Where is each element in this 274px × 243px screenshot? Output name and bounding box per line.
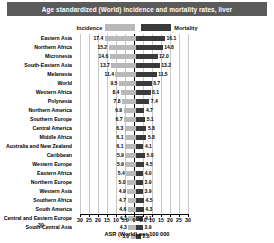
row-label: Northern Europe	[0, 178, 74, 187]
row-label: Northern Africa	[0, 43, 74, 52]
incidence-bar	[125, 126, 136, 132]
mortality-half: 5.8	[136, 133, 272, 142]
mortality-bar	[136, 144, 143, 150]
row-label: South-Eastern Asia	[0, 61, 74, 70]
page-title: Age standardized (World) incidence and m…	[42, 6, 232, 13]
mortality-half: 12.0	[136, 52, 272, 61]
table-row: Northern Africa15.214.8	[0, 43, 274, 52]
mortality-half: 11.5	[136, 70, 272, 79]
row-label: Western Africa	[0, 88, 74, 97]
incidence-value: 4.9	[119, 187, 126, 196]
mortality-half: 3.9	[136, 187, 272, 196]
mortality-value: 4.1	[145, 142, 152, 151]
legend-swatch-mortality	[141, 24, 171, 31]
axis-tick-label: 30	[185, 217, 191, 223]
chart-legend: Incidence Mortality	[0, 22, 274, 33]
incidence-value: 5.4	[118, 169, 125, 178]
incidence-value: 5.9	[117, 151, 124, 160]
mortality-bar	[136, 153, 145, 159]
legend-swatch-incidence	[105, 24, 135, 31]
mortality-value: 3.9	[145, 187, 152, 196]
incidence-half: 15.2	[74, 43, 136, 52]
table-row: Central America6.35.8	[0, 124, 274, 133]
mortality-half: 4.3	[136, 205, 272, 214]
axis-tick-label: 15	[158, 217, 164, 223]
incidence-value: 14.6	[99, 52, 109, 61]
table-row: Melanesia11.411.5	[0, 70, 274, 79]
axis-tick-label: 15	[104, 217, 110, 223]
row-label: Caribbean	[0, 151, 74, 160]
axis-tick-label: 30	[77, 217, 83, 223]
axis-tick-label: 25	[86, 217, 92, 223]
mortality-bar	[136, 90, 151, 96]
table-row: Southern Africa4.74.5	[0, 196, 274, 205]
incidence-bar	[126, 171, 136, 177]
incidence-bar	[111, 63, 136, 69]
row-label: Eastern Asia	[0, 34, 74, 43]
table-row: South-Eastern Asia13.713.2	[0, 61, 274, 70]
mortality-half: 5.1	[136, 115, 272, 124]
incidence-value: 5.9	[117, 160, 124, 169]
row-label: Southern Africa	[0, 196, 74, 205]
chart-rows: Eastern Asia17.416.1Northern Africa15.21…	[0, 34, 274, 241]
axis-tick-label: 5.0	[139, 217, 146, 223]
incidence-value: 8.4	[112, 88, 119, 97]
incidence-value: 15.2	[97, 43, 107, 52]
row-label: Western Asia	[0, 187, 74, 196]
incidence-half: 11.4	[74, 70, 136, 79]
incidence-half: 6.7	[74, 115, 136, 124]
incidence-half: 6.3	[74, 124, 136, 133]
table-row: Southern Europe6.75.1	[0, 115, 274, 124]
mortality-value: 12.0	[159, 52, 169, 61]
mortality-half: 14.8	[136, 43, 272, 52]
mortality-bar	[136, 225, 143, 231]
table-row: Caribbean5.95.0	[0, 151, 274, 160]
incidence-half: 5.9	[74, 160, 136, 169]
incidence-half: 5.9	[74, 151, 136, 160]
row-label: Central America	[0, 124, 74, 133]
incidence-half: 14.6	[74, 52, 136, 61]
incidence-bar	[127, 189, 136, 195]
table-row: Northern Europe5.03.9	[0, 178, 274, 187]
row-label: Eastern Africa	[0, 169, 74, 178]
mortality-half: 8.7	[136, 79, 272, 88]
incidence-value: 6.9	[115, 106, 122, 115]
mortality-value: 5.1	[147, 115, 154, 124]
incidence-bar	[125, 162, 136, 168]
mortality-bar	[136, 126, 146, 132]
mortality-half: 5.0	[136, 151, 272, 160]
mortality-value: 4.0	[145, 169, 152, 178]
mortality-half: 4.5	[136, 160, 272, 169]
axis-tick-label: 10	[113, 217, 119, 223]
incidence-bar	[125, 153, 136, 159]
incidence-value: 6.1	[117, 133, 124, 142]
mortality-bar	[136, 207, 144, 213]
table-row: Eastern Asia17.416.1	[0, 34, 274, 43]
legend-label-mortality: Mortality	[174, 25, 197, 31]
row-label: Western Europe	[0, 160, 74, 169]
mortality-value: 16.1	[166, 34, 176, 43]
incidence-bar	[128, 225, 136, 231]
table-row: Australia and New Zealand6.14.1	[0, 142, 274, 151]
mortality-value: 11.5	[158, 70, 167, 79]
incidence-half: 4.9	[74, 187, 136, 196]
mortality-half: 13.2	[136, 61, 272, 70]
incidence-bar	[115, 72, 136, 78]
axis-tick-label: 25	[176, 217, 182, 223]
row-label: Polynesia	[0, 97, 74, 106]
incidence-half: 17.4	[74, 34, 136, 43]
table-row: Middle Africa6.15.8	[0, 133, 274, 142]
table-row: Western Asia4.93.9	[0, 187, 274, 196]
axis-tick-label: 0	[133, 217, 136, 223]
mortality-bar	[136, 72, 157, 78]
row-label: Australia and New Zealand	[0, 142, 74, 151]
mortality-half: 4.5	[136, 196, 272, 205]
table-row: Polynesia7.87.4	[0, 97, 274, 106]
mortality-value: 5.8	[148, 133, 155, 142]
mortality-bar	[136, 36, 165, 42]
table-row: Eastern Africa5.44.0	[0, 169, 274, 178]
incidence-half: 8.4	[74, 88, 136, 97]
row-label: Micronesia	[0, 52, 74, 61]
incidence-half: 6.1	[74, 142, 136, 151]
incidence-half: 9.5	[74, 79, 136, 88]
